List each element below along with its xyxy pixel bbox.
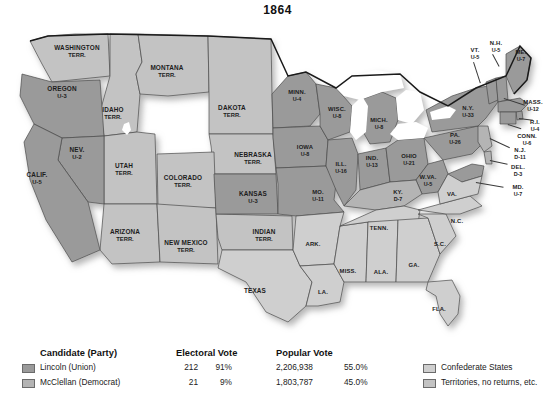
label-maryland: MD.U-7: [512, 184, 523, 198]
legend-label-lincoln: Lincoln (Union): [40, 362, 96, 372]
region-florida: [426, 280, 460, 326]
label-washington-territory: WASHINGTONTERR.: [54, 44, 99, 59]
legend-label-mcclellan: McClellan (Democrat): [40, 377, 120, 387]
legend-swatch-territories: [423, 379, 436, 388]
label-iowa: IOWAU-8: [297, 144, 313, 158]
legend-header-popular: Popular Vote: [276, 348, 333, 358]
label-vermont: VT.U-5: [471, 47, 480, 61]
label-oregon: OREGONU-3: [47, 85, 76, 100]
label-south-carolina: S.C.: [434, 241, 446, 248]
label-colorado-territory: COLORADOTERR.: [164, 174, 202, 189]
label-indian-territory: INDIANTERR.: [253, 228, 276, 243]
label-alabama: ALA.: [374, 269, 388, 276]
legend-electoral-votes-lincoln: 212: [176, 362, 198, 372]
map-container: WASHINGTONTERR. OREGONU-3 IDAHOTERR. MON…: [0, 14, 555, 344]
label-north-carolina: N.C.: [451, 218, 463, 225]
label-pennsylvania: PA.U-26: [449, 132, 461, 146]
label-illinois: ILL.U-16: [335, 161, 347, 175]
legend-electoral-pct-lincoln: 91%: [206, 362, 232, 372]
legend-header-candidate: Candidate (Party): [40, 348, 117, 358]
label-michigan: MICH.U-8: [370, 117, 387, 131]
region-new-mexico-territory: [157, 204, 218, 264]
label-idaho-territory: IDAHOTERR.: [102, 106, 123, 121]
label-georgia: GA.: [409, 262, 420, 269]
map-legend: Candidate (Party) Electoral Vote Popular…: [0, 346, 555, 415]
label-wisconsin: WISC.U-8: [328, 106, 346, 120]
label-dakota-territory: DAKOTATERR.: [218, 104, 246, 119]
label-louisiana: LA.: [318, 289, 328, 296]
legend-label-territories: Territories, no returns, etc.: [441, 377, 537, 387]
label-connecticut: CONN.U-6: [517, 133, 537, 147]
label-ohio: OHIOU-21: [401, 153, 417, 167]
legend-popular-pct-mcclellan: 45.0%: [344, 377, 378, 387]
label-maine: ME.U-7: [516, 49, 527, 63]
label-new-jersey: N.J.D-11: [514, 147, 525, 161]
legend-swatch-lincoln: [22, 364, 35, 373]
label-utah-territory: UTAHTERR.: [115, 162, 133, 177]
label-west-virginia: W.VA.U-5: [419, 174, 436, 188]
label-indiana: IND.U-13: [366, 155, 378, 169]
label-florida: FLA.: [432, 306, 446, 313]
legend-popular-pct-lincoln: 55.0%: [344, 362, 378, 372]
map-body: [20, 34, 531, 326]
electoral-map-figure: 1864: [0, 0, 555, 415]
legend-label-confederate-states: Confederate States: [441, 362, 513, 372]
label-nevada: NEV.U-2: [70, 146, 85, 161]
label-arizona-territory: ARIZONATERR.: [110, 228, 140, 243]
label-mississippi: MISS.: [340, 268, 357, 275]
legend-header-electoral: Electoral Vote: [176, 348, 237, 358]
legend-swatch-confederate-states: [423, 364, 436, 373]
label-minnesota: MINN.U-4: [288, 89, 305, 103]
label-new-hampshire: N.H.U-5: [490, 40, 502, 54]
legend-electoral-pct-mcclellan: 9%: [206, 377, 232, 387]
legend-electoral-votes-mcclellan: 21: [176, 377, 198, 387]
lake-huron: [396, 90, 424, 124]
label-delaware: DEL.D-3: [511, 164, 525, 178]
legend-swatch-mcclellan: [22, 379, 35, 388]
label-nebraska-territory: NEBRASKATERR.: [234, 151, 271, 166]
label-kansas: KANSASU-3: [239, 190, 267, 205]
region-delaware: [484, 151, 492, 164]
legend-popular-votes-lincoln: 2,206,938: [276, 362, 334, 372]
legend-popular-votes-mcclellan: 1,803,787: [276, 377, 334, 387]
label-texas: TEXAS: [244, 287, 266, 295]
label-new-york: N.Y.U-33: [462, 105, 474, 119]
label-arkansas: ARK.: [306, 241, 321, 248]
label-kentucky: KY.D-7: [393, 189, 403, 203]
label-virginia: VA.: [447, 191, 457, 198]
label-massachusetts: MASS.U-12: [523, 99, 542, 113]
region-connecticut: [500, 112, 516, 124]
label-rhode-island: R.I.U-4: [530, 119, 540, 133]
label-new-mexico-territory: NEW MEXICOTERR.: [164, 239, 207, 254]
label-missouri: MO.U-11: [312, 189, 324, 203]
label-tennessee: TENN.: [370, 225, 388, 232]
label-montana-territory: MONTANATERR.: [150, 64, 183, 79]
label-california: CALIF.U-5: [27, 171, 48, 186]
us-map-svg: [0, 14, 555, 344]
